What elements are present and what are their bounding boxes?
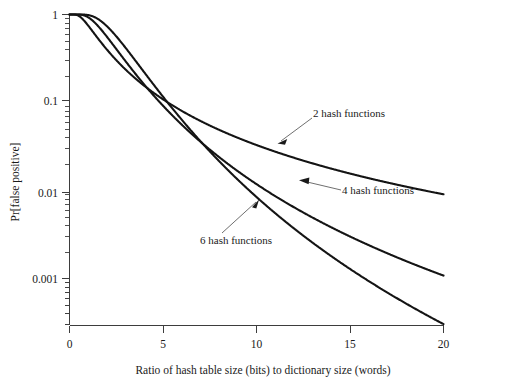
annotation-leader-4: [299, 178, 341, 190]
chart-canvas: 1 0.1 0.01 0.001 0 5 10 15 20 Pr[false p…: [0, 0, 527, 386]
x-tick-label-10: 10: [251, 338, 263, 350]
x-tick-label-0: 0: [67, 338, 73, 350]
series-label-6-hash-functions: 6 hash functions: [200, 234, 272, 246]
y-tick-label-0.1: 0.1: [44, 95, 59, 107]
x-axis-title: Ratio of hash table size (bits) to dicti…: [135, 364, 390, 377]
x-tick-label-15: 15: [344, 338, 356, 350]
annotation-leader-2: [278, 118, 313, 145]
annotation-leader-6: [222, 199, 259, 233]
x-tick-label-20: 20: [438, 338, 450, 350]
y-axis-title: Pr[false positive]: [9, 143, 22, 222]
y-axis-major-ticks: [62, 15, 70, 279]
y-tick-label-0.01: 0.01: [38, 187, 58, 199]
bloom-filter-false-positive-chart: 1 0.1 0.01 0.001 0 5 10 15 20 Pr[false p…: [0, 0, 527, 386]
x-axis-major-ticks: [70, 326, 444, 334]
curve-2-hash-functions: [70, 15, 444, 195]
series-label-2-hash-functions: 2 hash functions: [313, 107, 385, 119]
y-tick-label-0.001: 0.001: [32, 273, 58, 285]
series-label-4-hash-functions: 4 hash functions: [342, 184, 414, 196]
x-tick-label-5: 5: [160, 338, 166, 350]
y-tick-label-1: 1: [52, 9, 58, 21]
